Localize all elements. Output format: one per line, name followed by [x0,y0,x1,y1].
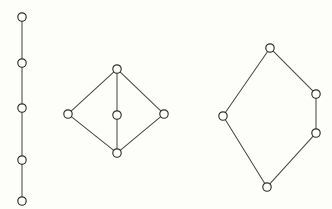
graph-pentagon-n5 [219,44,320,191]
graph-edge [225,51,267,112]
graph-chain-5 [18,13,26,205]
graph-edge [225,120,265,184]
graph-node-d-left [64,110,72,118]
hasse-diagrams-figure [0,0,332,209]
graph-node-c4 [18,156,26,164]
graph-edge [270,136,313,184]
graph-node-c2 [18,59,26,67]
diagram-canvas: Three Hasse diagrams of partially ordere… [0,0,332,209]
graph-edge [71,117,113,151]
graph-edge [120,117,161,151]
graph-node-p-upper-right [312,90,320,98]
nodes-pentagon-n5 [219,44,320,191]
graph-edge [71,72,114,111]
graph-diamond-m3 [64,65,168,157]
graph-node-d-bottom [113,149,121,157]
graph-node-p-lower-right [312,129,320,137]
graph-node-c3 [18,104,26,112]
graph-node-p-top [266,44,274,52]
graph-node-c1 [18,13,26,21]
graph-node-d-right [160,110,168,118]
graph-node-p-left [219,112,227,120]
graph-node-d-top [113,65,121,73]
graph-edge [120,72,161,111]
graph-node-c5 [18,197,26,205]
graph-edge [273,51,313,91]
edges-pentagon-n5 [225,51,316,184]
graph-node-d-center [113,111,121,119]
graphs-layer [18,13,320,205]
nodes-diamond-m3 [64,65,168,157]
graph-node-p-bottom [263,183,271,191]
